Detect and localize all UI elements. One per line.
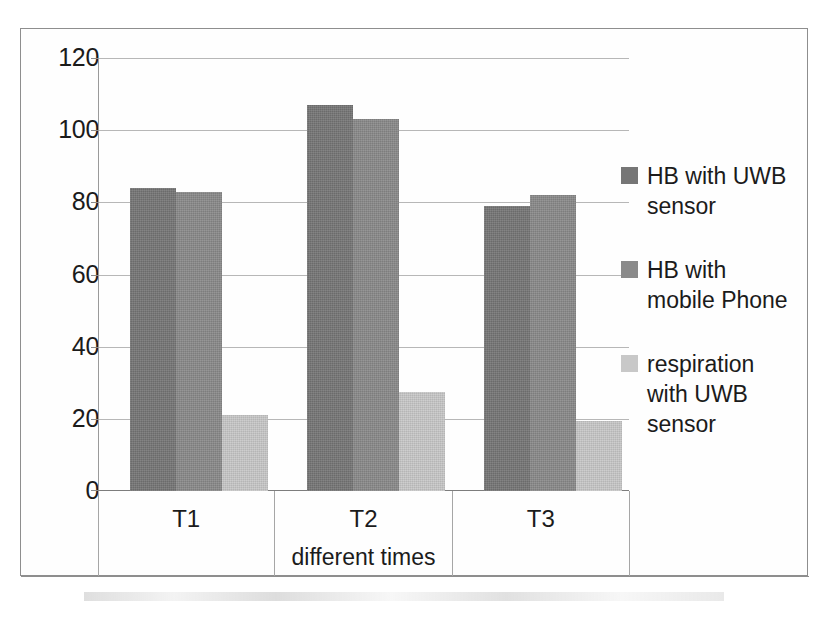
category-band-right-edge [629, 491, 630, 577]
legend-swatch-icon [621, 167, 638, 184]
legend-entry-2[interactable]: HB with mobile Phone [621, 255, 806, 315]
caption-remnant [84, 592, 724, 601]
y-axis-tick-labels: 120 100 80 60 40 20 0 [29, 29, 99, 575]
bar-s2-t2[interactable] [353, 119, 399, 491]
y-tick-label: 40 [33, 334, 99, 359]
bar-s2-t1[interactable] [176, 192, 222, 491]
legend-swatch-icon [621, 355, 638, 372]
category-band-bottom-rule [21, 576, 809, 577]
bar-s1-t2[interactable] [307, 105, 353, 491]
legend-entry-3[interactable]: respiration with UWB sensor [621, 349, 806, 439]
bar-group-t1 [98, 58, 275, 491]
y-tick-label: 0 [33, 478, 99, 503]
chart-frame: 120 100 80 60 40 20 0 T1 T2 T3 different… [20, 28, 808, 576]
y-tick-label: 120 [33, 45, 99, 70]
bar-s1-t3[interactable] [484, 206, 530, 491]
y-tick-label: 80 [33, 189, 99, 214]
bar-group-t2 [275, 58, 452, 491]
y-tick-label: 100 [33, 117, 99, 142]
legend-label: HB with UWB sensor [647, 161, 786, 221]
bar-s3-t2[interactable] [399, 392, 445, 491]
plot-area [98, 58, 629, 491]
x-axis-title: different times [98, 544, 629, 571]
bar-group-t3 [452, 58, 629, 491]
y-tick-label: 60 [33, 262, 99, 287]
bar-s3-t1[interactable] [222, 415, 268, 491]
legend-label: HB with mobile Phone [647, 255, 788, 315]
bar-s2-t3[interactable] [530, 195, 576, 491]
legend-swatch-icon [621, 261, 638, 278]
bar-s1-t1[interactable] [130, 188, 176, 491]
legend-label: respiration with UWB sensor [647, 349, 754, 439]
legend-entry-1[interactable]: HB with UWB sensor [621, 161, 806, 221]
bars-layer [98, 58, 629, 491]
y-tick-label: 20 [33, 406, 99, 431]
bar-s3-t3[interactable] [576, 421, 622, 491]
chart-legend: HB with UWB sensor HB with mobile Phoner… [621, 161, 806, 473]
